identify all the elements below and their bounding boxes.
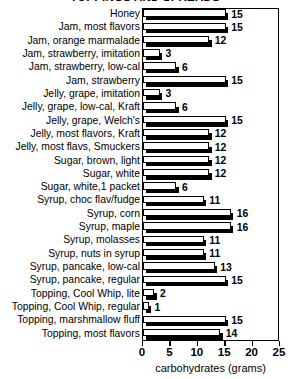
bar	[143, 289, 157, 301]
bar-face	[143, 182, 176, 189]
category-label: Jam, strawberry	[66, 75, 140, 87]
category-label: Syrup, choc flav/fudge	[37, 194, 140, 206]
bar-value-label: 16	[237, 222, 249, 234]
category-label: Honey	[110, 8, 140, 20]
bar-face	[143, 102, 176, 109]
bar	[143, 89, 162, 101]
bar-value-label: 6	[182, 102, 188, 114]
bar-face	[143, 236, 203, 243]
bar-row: Syrup, choc flav/fudge11	[0, 194, 290, 208]
category-label: Jam, most flavors	[59, 21, 140, 33]
bar-face	[143, 142, 209, 149]
bar-value-label: 6	[182, 62, 188, 74]
bar-value-label: 15	[231, 9, 243, 21]
bar-face	[143, 262, 214, 269]
x-axis: carbohydrates (grams) 0510152025	[0, 341, 290, 379]
category-label: Jelly, grape, Welch's	[46, 115, 140, 127]
category-label: Jelly, grape, imitation	[43, 88, 140, 100]
bar	[143, 209, 234, 221]
category-label: Syrup, pancake, low-cal	[30, 261, 140, 273]
category-label: Jelly, most flavors, Kraft	[30, 128, 140, 140]
bar-value-label: 2	[160, 288, 166, 300]
category-label: Topping, Cool Whip, lite	[31, 288, 140, 300]
bar-row: Jam, strawberry, imitation3	[0, 48, 290, 62]
bar	[143, 276, 228, 288]
bar-value-label: 15	[231, 275, 243, 287]
category-label: Jelly, grape, low-cal, Kraft	[22, 101, 140, 113]
bar-row: Syrup, maple16	[0, 221, 290, 235]
bar-row: Jelly, most flavs, Smuckers12	[0, 141, 290, 155]
category-label: Jam, strawberry, low-cal	[29, 61, 140, 73]
bar	[143, 36, 212, 48]
bar-row: Jelly, grape, low-cal, Kraft6	[0, 101, 290, 115]
bar-value-label: 14	[226, 328, 238, 340]
x-tick-label: 10	[182, 346, 212, 359]
category-label: Syrup, pancake, regular	[30, 274, 140, 286]
bar-value-label: 15	[231, 115, 243, 127]
x-axis-title: carbohydrates (grams)	[142, 362, 279, 375]
bar-value-label: 16	[237, 208, 249, 220]
bar-value-label: 12	[215, 35, 227, 47]
x-tick-label: 15	[209, 346, 239, 359]
bar-face	[143, 89, 159, 96]
bar-face	[143, 9, 225, 16]
bar-value-label: 11	[209, 235, 220, 247]
bar-face	[143, 209, 231, 216]
bar-value-label: 12	[215, 142, 227, 154]
bar-face	[143, 62, 176, 69]
bar-row: Syrup, pancake, regular15	[0, 274, 290, 288]
bar-row: Topping, Cool Whip, regular1	[0, 301, 290, 315]
bar-value-label: 12	[215, 155, 227, 167]
bar-row: Honey15	[0, 8, 290, 22]
bar-row: Syrup, corn16	[0, 208, 290, 222]
bar-value-label: 6	[182, 182, 188, 194]
bar-row: Sugar, white12	[0, 168, 290, 182]
category-label: Sugar, white,1 packet	[41, 181, 140, 193]
bar	[143, 182, 179, 194]
bar-row: Jam, strawberry15	[0, 75, 290, 89]
category-label: Topping, marshmallow fluff	[17, 314, 140, 326]
bar-row: Jelly, grape, imitation3	[0, 88, 290, 102]
bar-row: Jelly, grape, Welch's15	[0, 115, 290, 129]
bar	[143, 23, 228, 35]
bar-value-label: 15	[231, 75, 243, 87]
bar	[143, 262, 217, 274]
bar-row: Syrup, molasses11	[0, 234, 290, 248]
bar-value-label: 15	[231, 315, 243, 327]
bar-value-label: 12	[215, 128, 227, 140]
bar-row: Topping, Cool Whip, lite2	[0, 288, 290, 302]
bar-face	[143, 329, 220, 336]
bar-value-label: 3	[165, 48, 171, 60]
bar-face	[143, 196, 203, 203]
bar	[143, 129, 212, 141]
bar-face	[143, 36, 209, 43]
bar-face	[143, 302, 148, 309]
bar	[143, 62, 179, 74]
bar-row: Topping, marshmallow fluff15	[0, 314, 290, 328]
bar-face	[143, 276, 225, 283]
bar	[143, 102, 179, 114]
bar-row: Sugar, brown, light12	[0, 155, 290, 169]
bar-value-label: 1	[154, 302, 160, 314]
bar-face	[143, 316, 225, 323]
bar-face	[143, 156, 209, 163]
x-tick-label: 0	[127, 346, 157, 359]
bar	[143, 222, 234, 234]
bar-row: Jelly, most flavors, Kraft12	[0, 128, 290, 142]
bar-value-label: 11	[209, 248, 220, 260]
category-label: Syrup, molasses	[63, 234, 140, 246]
bar-row: Syrup, nuts in syrup11	[0, 248, 290, 262]
bar	[143, 76, 228, 88]
x-tick-label: 5	[154, 346, 184, 359]
x-tick-label: 20	[237, 346, 267, 359]
bar	[143, 116, 228, 128]
bar-face	[143, 169, 209, 176]
bar-face	[143, 76, 225, 83]
bar-chart: TOPPINGS AND SPREADS Honey15Jam, most fl…	[0, 0, 290, 379]
category-label: Syrup, corn	[87, 208, 140, 220]
category-label: Sugar, white	[83, 168, 140, 180]
bar-face	[143, 249, 203, 256]
bar	[143, 156, 212, 168]
bar	[143, 249, 206, 261]
bar-row: Jam, most flavors15	[0, 21, 290, 35]
